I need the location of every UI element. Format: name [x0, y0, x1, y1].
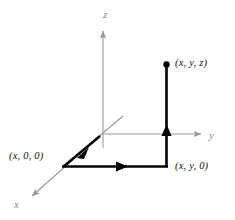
x-axis-negative-stub [103, 116, 123, 133]
segment-origin-to-x00 [63, 136, 100, 167]
point-marker-xyz [163, 61, 169, 67]
arrowhead-z-direction [162, 124, 172, 136]
path-group [62, 61, 172, 171]
coordinate-diagram: z y x (x, y, z) (x, y, 0) (x, 0, 0) [0, 0, 235, 220]
arrowhead-y-direction [116, 162, 128, 172]
diagram-canvas [0, 0, 235, 220]
